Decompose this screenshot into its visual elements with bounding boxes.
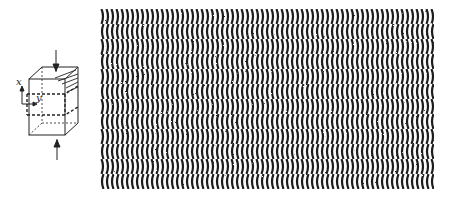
cube-top-face [29, 67, 78, 79]
cube-front-face [29, 79, 65, 135]
arrow-up-icon [54, 139, 60, 160]
x-axis-label: x [16, 76, 22, 87]
y-axis-label: y [35, 92, 42, 103]
cube-diagram: x y [0, 40, 95, 170]
figure: x y [0, 0, 456, 197]
fringe-pattern [100, 9, 434, 189]
arrow-down-icon [53, 50, 59, 72]
